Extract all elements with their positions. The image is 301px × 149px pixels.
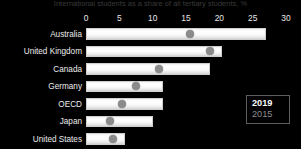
bar-2019-germany xyxy=(86,81,163,93)
x-axis-tick-labels: 051015202530 xyxy=(0,13,301,25)
x-tick-label: 0 xyxy=(84,13,89,24)
bar-2019-united-states xyxy=(86,133,125,145)
chart-title: International students as a share of all… xyxy=(0,0,301,8)
chart-row: United Kingdom xyxy=(0,44,301,62)
x-tick-label: 20 xyxy=(215,13,224,24)
marker-2015-oecd xyxy=(118,100,126,108)
chart-legend: 2019 2015 xyxy=(246,95,290,124)
category-label-united-kingdom: United Kingdom xyxy=(0,46,82,57)
x-tick-label: 15 xyxy=(181,13,190,24)
legend-item-2019[interactable]: 2019 xyxy=(252,98,285,110)
chart-row: Canada xyxy=(0,61,301,79)
bar-2019-australia xyxy=(86,28,266,40)
category-label-oecd: OECD xyxy=(0,99,82,110)
plot-area: AustraliaUnited KingdomCanadaGermanyOECD… xyxy=(0,26,301,149)
category-label-australia: Australia xyxy=(0,29,82,40)
x-tick-label: 30 xyxy=(281,13,290,24)
legend-item-2015[interactable]: 2015 xyxy=(252,109,285,121)
x-tick-label: 10 xyxy=(148,13,157,24)
category-label-japan: Japan xyxy=(0,116,82,127)
category-label-canada: Canada xyxy=(0,64,82,75)
bar-2019-united-kingdom xyxy=(86,46,222,58)
category-label-united-states: United States xyxy=(0,134,82,145)
chart-row: Germany xyxy=(0,79,301,97)
chart-row: United States xyxy=(0,131,301,149)
chart-container: International students as a share of all… xyxy=(0,0,301,149)
bar-2019-japan xyxy=(86,116,153,128)
bar-2019-canada xyxy=(86,63,210,75)
x-tick-label: 25 xyxy=(248,13,257,24)
marker-2015-australia xyxy=(186,30,194,38)
chart-row: Australia xyxy=(0,26,301,44)
category-label-germany: Germany xyxy=(0,81,82,92)
x-tick-label: 5 xyxy=(117,13,122,24)
